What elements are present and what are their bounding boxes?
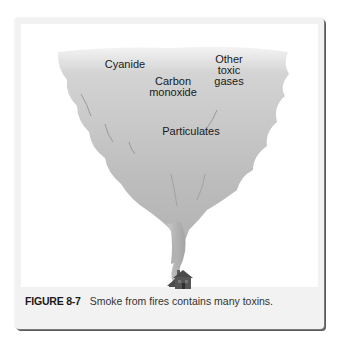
label-carbon-monoxide: Carbon monoxide xyxy=(138,76,208,98)
caption-text: Smoke from fires contains many toxins. xyxy=(90,295,273,307)
figure-caption: FIGURE 8-7Smoke from fires contains many… xyxy=(25,295,320,307)
house-icon xyxy=(173,269,193,289)
label-cyanide: Cyanide xyxy=(95,59,155,70)
smoke-illustration xyxy=(21,24,318,287)
label-particulates: Particulates xyxy=(151,126,231,137)
label-other-toxic-gases: Other toxic gases xyxy=(204,54,254,87)
figure-number: FIGURE 8-7 xyxy=(25,295,81,307)
figure-frame: Cyanide Carbon monoxide Other toxic gase… xyxy=(15,18,324,329)
illustration-panel: Cyanide Carbon monoxide Other toxic gase… xyxy=(21,24,318,287)
house xyxy=(173,269,193,289)
